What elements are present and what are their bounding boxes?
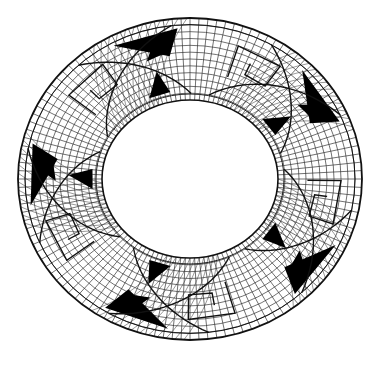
crosshatch-grid bbox=[18, 18, 362, 340]
ring-pattern-svg bbox=[0, 0, 380, 366]
